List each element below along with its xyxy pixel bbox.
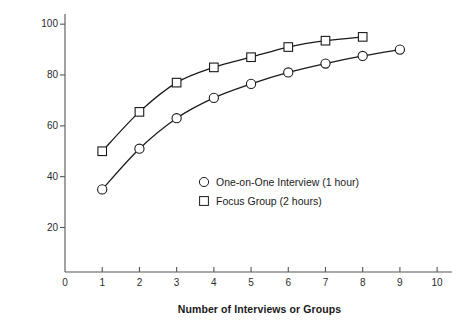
chart-figure: Percent of Needs Identified Number of In…: [0, 0, 459, 328]
series-line: [102, 37, 362, 151]
data-point-marker: [358, 51, 367, 60]
data-point-marker: [98, 185, 107, 194]
data-point-marker: [321, 59, 330, 68]
legend-item-focus-group: Focus Group (2 hours): [196, 191, 411, 210]
series-line: [102, 50, 400, 190]
data-point-marker: [135, 144, 144, 153]
data-point-marker: [247, 53, 256, 62]
data-point-marker: [98, 147, 107, 156]
data-point-marker: [284, 43, 293, 52]
data-point-marker: [172, 114, 181, 123]
data-point-marker: [135, 108, 144, 117]
data-point-marker: [395, 45, 404, 54]
plot-area: [0, 0, 459, 328]
data-point-marker: [210, 63, 219, 72]
legend-item-one-on-one: One-on-One Interview (1 hour): [196, 172, 411, 191]
circle-marker-icon: [196, 174, 212, 190]
data-point-marker: [209, 93, 218, 102]
chart-legend: One-on-One Interview (1 hour) Focus Grou…: [196, 172, 411, 210]
data-point-marker: [358, 33, 367, 42]
series-focus-group: [98, 33, 367, 156]
square-marker-icon: [196, 193, 212, 209]
legend-item-label: One-on-One Interview (1 hour): [216, 176, 359, 188]
legend-item-label: Focus Group (2 hours): [216, 195, 322, 207]
data-point-marker: [246, 79, 255, 88]
data-point-marker: [321, 36, 330, 45]
data-point-marker: [172, 78, 181, 87]
data-point-marker: [284, 68, 293, 77]
